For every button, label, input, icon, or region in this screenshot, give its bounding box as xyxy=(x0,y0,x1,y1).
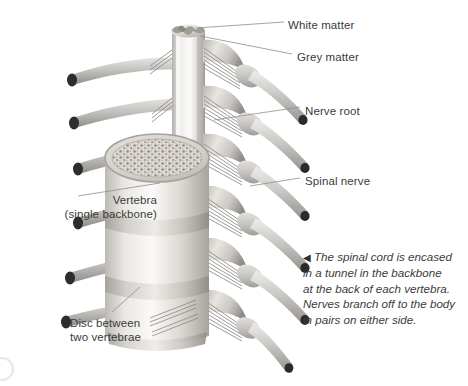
caption-line-3: at the back of each vertebra. xyxy=(303,281,463,296)
caption-line-5: in pairs on either side. xyxy=(303,312,463,327)
caption-line-2: in a tunnel in the backbone xyxy=(303,265,463,280)
label-disc-line2: two vertebrae xyxy=(70,330,141,344)
label-disc-line1: Disc between xyxy=(70,316,140,330)
page-corner-mark xyxy=(0,358,13,380)
label-white-matter: White matter xyxy=(288,18,354,32)
right-nerve-6 xyxy=(232,313,293,373)
grey-matter-cross-section xyxy=(171,25,205,38)
label-grey-matter: Grey matter xyxy=(297,50,359,64)
label-vertebra: Vertebra xyxy=(37,193,157,207)
label-nerve-root: Nerve root xyxy=(305,104,360,118)
vertebra-2 xyxy=(105,228,209,286)
label-spinal-nerve: Spinal nerve xyxy=(305,174,370,188)
caption-line-1: The spinal cord is encased xyxy=(314,250,452,263)
caption-line-4: Nerves branch off to the body xyxy=(303,296,463,311)
caption-triangle-icon: ◀ xyxy=(303,252,311,263)
leader-white-matter xyxy=(196,22,284,28)
figure-caption: ◀The spinal cord is encased in a tunnel … xyxy=(303,249,463,327)
label-vertebra-subtitle: (single backbone) xyxy=(10,207,157,221)
